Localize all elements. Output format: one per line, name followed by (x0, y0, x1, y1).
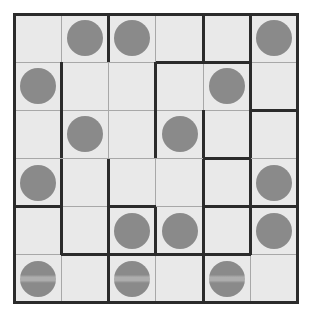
region-border-vertical (154, 110, 157, 158)
grid-cell[interactable] (156, 255, 203, 303)
region-border-horizontal (109, 253, 156, 256)
grid-line-horizontal-thin (203, 110, 250, 111)
grid-line-vertical-thin (61, 14, 62, 62)
grid-line-horizontal-thin (156, 206, 203, 207)
grid-line-horizontal-thin (109, 62, 156, 63)
region-border-vertical (249, 62, 252, 110)
grid-cell[interactable] (14, 207, 61, 255)
region-border-horizontal (203, 253, 250, 256)
grid-cell[interactable] (61, 207, 108, 255)
grid-line-horizontal-thin (251, 254, 298, 255)
grid-line-horizontal-thin (14, 62, 61, 63)
grid-line-horizontal-thin (61, 62, 108, 63)
grid-cell[interactable] (61, 255, 108, 303)
grid-cell[interactable] (251, 62, 298, 110)
grid-disc[interactable] (67, 20, 103, 56)
grid-disc[interactable] (209, 68, 245, 104)
region-border-vertical (107, 207, 110, 255)
grid-line-horizontal-thin (156, 110, 203, 111)
grid-cell[interactable] (156, 14, 203, 62)
region-border-vertical (249, 159, 252, 207)
grid-line-vertical-thin (155, 14, 156, 62)
puzzle-canvas (0, 0, 317, 322)
grid-disc[interactable] (114, 261, 150, 297)
grid-line-vertical-thin (108, 62, 109, 110)
grid-line-horizontal-thin (14, 110, 61, 111)
grid-line-vertical-thin (108, 110, 109, 158)
grid-line-horizontal-thin (61, 158, 108, 159)
region-border-vertical (202, 255, 205, 303)
grid-cell[interactable] (203, 14, 250, 62)
grid-line-horizontal-thin (14, 158, 61, 159)
grid-disc[interactable] (162, 213, 198, 249)
grid-cell[interactable] (109, 159, 156, 207)
grid-line-horizontal-thin (156, 158, 203, 159)
grid-line-vertical-thin (250, 255, 251, 303)
grid-line-horizontal-thin (251, 158, 298, 159)
region-border-vertical (202, 110, 205, 158)
grid-line-horizontal-thin (61, 206, 108, 207)
grid-line-vertical-thin (155, 255, 156, 303)
grid-cell[interactable] (203, 159, 250, 207)
region-border-horizontal (61, 253, 108, 256)
region-border-vertical (249, 207, 252, 255)
grid-line-horizontal-thin (109, 158, 156, 159)
grid-line-vertical-thin (155, 159, 156, 207)
grid-disc[interactable] (256, 213, 292, 249)
grid-cell[interactable] (251, 110, 298, 158)
grid-cell[interactable] (156, 62, 203, 110)
grid-disc[interactable] (209, 261, 245, 297)
grid-disc[interactable] (114, 213, 150, 249)
grid-line-horizontal-thin (251, 62, 298, 63)
region-border-horizontal (156, 61, 203, 64)
grid-line-horizontal-thin (109, 110, 156, 111)
grid-disc[interactable] (20, 261, 56, 297)
region-border-vertical (60, 159, 63, 207)
grid-cell[interactable] (14, 110, 61, 158)
region-border-vertical (154, 207, 157, 255)
puzzle-grid[interactable] (14, 14, 298, 303)
region-border-vertical (60, 110, 63, 158)
region-border-vertical (202, 207, 205, 255)
region-border-horizontal (251, 205, 298, 208)
grid-cell[interactable] (61, 62, 108, 110)
region-border-horizontal (251, 109, 298, 112)
region-border-vertical (202, 159, 205, 207)
grid-cell[interactable] (203, 110, 250, 158)
region-border-vertical (107, 14, 110, 62)
grid-cell[interactable] (61, 159, 108, 207)
grid-cell[interactable] (251, 255, 298, 303)
grid-cell[interactable] (156, 159, 203, 207)
region-border-vertical (107, 255, 110, 303)
region-border-vertical (107, 159, 110, 207)
region-border-vertical (60, 62, 63, 110)
region-border-horizontal (14, 205, 61, 208)
region-border-vertical (249, 14, 252, 62)
region-border-vertical (60, 207, 63, 255)
region-border-horizontal (203, 205, 250, 208)
region-border-vertical (154, 62, 157, 110)
region-border-horizontal (203, 157, 250, 160)
region-border-horizontal (156, 253, 203, 256)
grid-cell[interactable] (109, 110, 156, 158)
region-border-vertical (202, 14, 205, 62)
grid-line-horizontal-thin (14, 254, 61, 255)
grid-disc[interactable] (20, 68, 56, 104)
grid-cell[interactable] (109, 62, 156, 110)
grid-cell[interactable] (14, 14, 61, 62)
region-border-vertical (249, 110, 252, 158)
grid-disc[interactable] (20, 165, 56, 201)
grid-line-horizontal-thin (61, 110, 108, 111)
grid-cell[interactable] (203, 207, 250, 255)
grid-disc[interactable] (162, 116, 198, 152)
grid-disc[interactable] (256, 165, 292, 201)
region-border-horizontal (203, 61, 250, 64)
grid-line-vertical-thin (203, 62, 204, 110)
region-border-horizontal (109, 205, 156, 208)
grid-line-vertical-thin (61, 255, 62, 303)
